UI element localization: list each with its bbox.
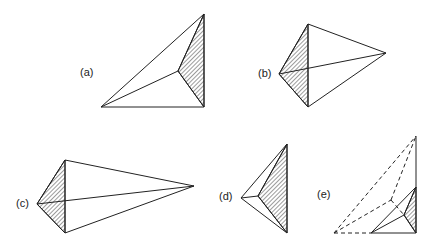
edge [65,160,194,186]
hatched-face [279,24,308,107]
panel-a: (a) [80,14,204,107]
panel-label: (e) [317,188,330,200]
edge [371,215,404,233]
panel-label: (d) [219,190,232,202]
edge [308,24,386,53]
panel-d: (d) [219,144,287,233]
hidden-edge [334,200,391,233]
panel-label: (c) [16,197,29,209]
panel-c: (c) [16,160,194,233]
hatched-face [178,14,204,107]
edge [101,71,178,107]
hidden-edge [391,200,404,215]
panel-label: (b) [258,67,271,79]
panel-e: (e) [317,136,416,233]
hidden-edge [334,136,416,233]
edge [241,196,258,198]
panel-label: (a) [80,66,93,78]
panel-b: (b) [258,24,386,107]
diagram-canvas: (a) (b) (c) (d) (e) [0,0,439,243]
